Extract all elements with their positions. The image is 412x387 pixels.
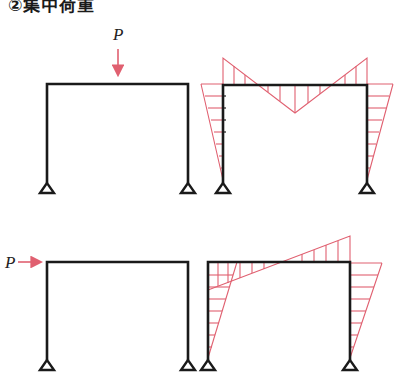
moment-diagram-horizontal-load xyxy=(201,236,382,370)
pin-support-icon xyxy=(40,183,54,193)
moment-diagram-vertical-load xyxy=(201,58,393,193)
frame-horizontal-load: P xyxy=(4,253,195,370)
pin-support-icon xyxy=(216,183,230,193)
frame-vertical-load: P xyxy=(40,25,195,193)
portal-frame xyxy=(47,84,188,183)
pin-support-icon xyxy=(40,360,54,370)
portal-frame xyxy=(208,262,350,360)
portal-frame xyxy=(47,262,188,360)
pin-support-icon xyxy=(201,360,215,370)
load-label-p-horizontal: P xyxy=(4,253,15,272)
load-label-p-vertical: P xyxy=(112,25,123,44)
pin-support-icon xyxy=(360,183,374,193)
pin-support-icon xyxy=(181,183,195,193)
pin-support-icon xyxy=(181,360,195,370)
pin-support-icon xyxy=(343,360,357,370)
